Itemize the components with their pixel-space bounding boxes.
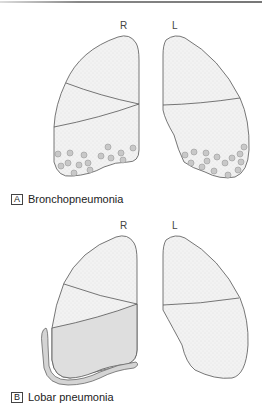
right-lung bbox=[54, 36, 139, 176]
panel-b: R L bbox=[42, 220, 249, 385]
label-r: R bbox=[120, 20, 127, 31]
label-r: R bbox=[120, 220, 127, 231]
caption-a: A Bronchopneumonia bbox=[11, 193, 123, 205]
left-lung bbox=[163, 36, 249, 178]
panel-letter-a: A bbox=[11, 194, 23, 205]
panel-a: R L bbox=[54, 20, 249, 178]
caption-title-a: Bronchopneumonia bbox=[28, 193, 123, 205]
caption-title-b: Lobar pneumonia bbox=[28, 391, 114, 403]
left-lung bbox=[163, 236, 248, 378]
label-l: L bbox=[172, 20, 178, 31]
panel-letter-b: B bbox=[11, 392, 23, 403]
caption-b: B Lobar pneumonia bbox=[11, 391, 114, 403]
label-l: L bbox=[172, 220, 178, 231]
